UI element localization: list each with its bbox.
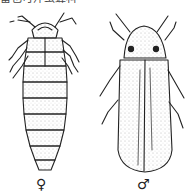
insect-illustration xyxy=(0,0,192,193)
male-insect-drawing xyxy=(100,14,184,172)
female-insect-drawing xyxy=(9,13,79,170)
female-symbol: ♀ xyxy=(36,177,46,191)
male-symbol: ♂ xyxy=(137,177,150,191)
